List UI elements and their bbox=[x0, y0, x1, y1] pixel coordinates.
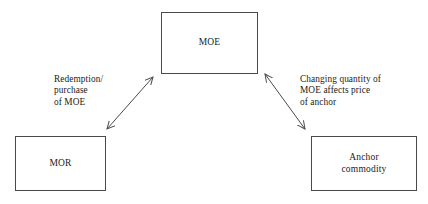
node-anchor-commodity-label: Anchor commodity bbox=[341, 152, 386, 175]
node-mor: MOR bbox=[15, 136, 106, 191]
node-anchor-commodity: Anchor commodity bbox=[311, 136, 417, 191]
node-moe-label: MOE bbox=[199, 37, 221, 49]
diagram-canvas: MOE MOR Anchor commodity Redemption/ pur… bbox=[0, 0, 428, 204]
arrow-moe-to-anchor bbox=[265, 74, 305, 129]
node-moe: MOE bbox=[161, 12, 258, 74]
edge-label-changing-quantity: Changing quantity of MOE affects price o… bbox=[300, 74, 418, 108]
node-mor-label: MOR bbox=[49, 158, 71, 170]
edge-label-redemption-purchase: Redemption/ purchase of MOE bbox=[54, 74, 132, 108]
